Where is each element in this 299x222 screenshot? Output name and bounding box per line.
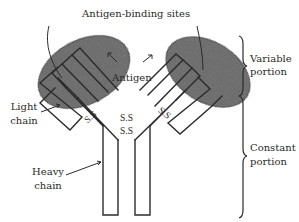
heavy-chain-label-line1: Heavy	[30, 166, 66, 178]
variable-portion-label-line2: portion	[250, 66, 287, 78]
constant-portion-label-line2: portion	[250, 156, 287, 168]
light-chain-label-line1: Light	[8, 101, 40, 113]
heavy-chain-stem-left	[103, 126, 118, 215]
heavy-chain-stem-right	[135, 126, 150, 215]
disulfide-bond-hinge-upper: S.S	[120, 113, 133, 123]
constant-portion-bracket	[239, 96, 247, 218]
constant-portion-label-line1: Constant	[250, 142, 296, 154]
antigen-label: Antigen	[112, 72, 152, 84]
disulfide-bond-hinge-lower: S.S	[120, 126, 133, 136]
antigen-binding-sites-label: Antigen-binding sites	[82, 8, 190, 20]
variable-portion-label-line1: Variable	[250, 53, 292, 65]
light-chain-label-line2: chain	[8, 115, 40, 127]
antibody-diagram: Antigen-binding sites Antigen Light chai…	[0, 0, 299, 222]
antigen-arrow-right	[143, 55, 152, 62]
heavy-chain-label-line2: chain	[30, 180, 66, 192]
heavy-chain-arrow	[66, 162, 101, 175]
